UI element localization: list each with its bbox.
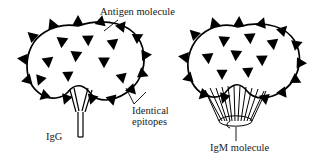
label-igm-molecule: IgM molecule — [210, 142, 269, 153]
label-identical-epitopes-line2: epitopes — [132, 116, 169, 127]
figure-canvas: Antigen molecule IgG Identical epitopes … — [0, 0, 312, 161]
label-antigen-molecule: Antigen molecule — [100, 6, 175, 17]
igm-panel — [177, 15, 307, 128]
label-igg: IgG — [46, 131, 62, 142]
label-identical-epitopes: Identical epitopes — [132, 105, 169, 127]
label-identical-epitopes-line1: Identical — [132, 105, 169, 116]
